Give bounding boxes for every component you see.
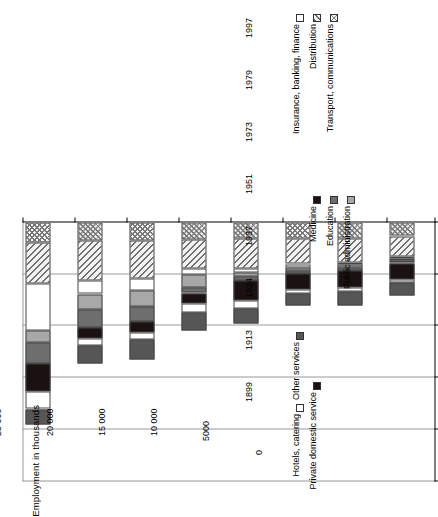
legend-swatch-public-administration-icon bbox=[347, 196, 355, 204]
segment-transport bbox=[25, 222, 50, 242]
category-label-1973: 1973 bbox=[244, 122, 254, 142]
segment-transport bbox=[181, 222, 206, 239]
segment-education bbox=[129, 306, 154, 321]
legend-swatch-transport-communications-icon bbox=[330, 14, 338, 22]
legend-label: Insurance, banking, finance bbox=[292, 24, 301, 134]
bar-1951 bbox=[181, 0, 206, 491]
category-label-1899: 1899 bbox=[244, 382, 254, 402]
category-label-1924: 1924 bbox=[244, 278, 254, 298]
ticklabel-10000: 10 000 bbox=[149, 408, 159, 436]
segment-distribution bbox=[389, 236, 414, 257]
segment-public-administration bbox=[233, 272, 258, 276]
category-label-1979: 1979 bbox=[244, 70, 254, 90]
segment-insurance bbox=[129, 278, 154, 290]
segment-transport bbox=[129, 222, 154, 240]
segment-medicine bbox=[181, 293, 206, 304]
ticklabel-25000: 25 000 bbox=[0, 408, 3, 436]
segment-medicine bbox=[389, 263, 414, 280]
legend-column-3: Insurance, banking, finance Distribution… bbox=[292, 0, 309, 491]
category-tick bbox=[282, 217, 283, 222]
tick-25000 bbox=[434, 480, 438, 481]
segment-medicine bbox=[129, 321, 154, 332]
segment-public-administration bbox=[129, 290, 154, 306]
ticklabel-0: 0 bbox=[254, 450, 264, 455]
category-tick bbox=[126, 217, 127, 222]
legend-item-education[interactable]: Education bbox=[326, 196, 343, 246]
legend-label: Medicine bbox=[309, 206, 318, 242]
segment-other-services bbox=[129, 339, 154, 359]
category-label-1997: 1997 bbox=[244, 18, 254, 38]
segment-other-services bbox=[389, 282, 414, 295]
segment-hotels bbox=[129, 332, 154, 339]
segment-distribution bbox=[25, 242, 50, 283]
segment-other-services bbox=[181, 312, 206, 330]
legend-item-medicine[interactable]: Medicine bbox=[309, 196, 326, 242]
bar-1899 bbox=[389, 0, 414, 491]
legend-swatch-insurance-banking-finance-icon bbox=[296, 14, 304, 22]
legend-label: Public administration bbox=[343, 206, 352, 289]
plot-frame-top bbox=[22, 222, 23, 481]
tick-15000 bbox=[434, 376, 438, 377]
category-tick bbox=[74, 217, 75, 222]
segment-transport bbox=[77, 222, 102, 240]
segment-other-services bbox=[233, 308, 258, 323]
value-axis-line bbox=[434, 221, 435, 481]
segment-insurance bbox=[77, 280, 102, 294]
tick-10000 bbox=[434, 324, 438, 325]
legend: Other services Hotels, catering Private … bbox=[292, 0, 346, 491]
segment-public-administration bbox=[25, 330, 50, 342]
segment-hotels bbox=[233, 300, 258, 308]
category-tick bbox=[178, 217, 179, 222]
legend-swatch-education-icon bbox=[330, 196, 338, 204]
legend-swatch-distribution-icon bbox=[313, 14, 321, 22]
legend-column-2: Medicine Education Public administration bbox=[309, 0, 326, 491]
segment-transport bbox=[389, 222, 414, 236]
segment-insurance bbox=[25, 283, 50, 330]
category-tick bbox=[386, 217, 387, 222]
segment-medicine bbox=[77, 327, 102, 338]
segment-insurance bbox=[233, 268, 258, 272]
segment-education bbox=[77, 309, 102, 327]
segment-public-administration bbox=[77, 294, 102, 310]
segment-education bbox=[25, 342, 50, 363]
segment-hotels bbox=[77, 338, 102, 345]
legend-label: Education bbox=[326, 206, 335, 246]
segment-public-administration bbox=[181, 274, 206, 287]
segment-education bbox=[181, 287, 206, 293]
segment-other-services bbox=[77, 345, 102, 363]
tick-20000 bbox=[434, 428, 438, 429]
category-tick bbox=[230, 217, 231, 222]
segment-medicine bbox=[25, 363, 50, 391]
segment-insurance bbox=[181, 268, 206, 274]
category-tick bbox=[434, 217, 435, 222]
legend-label: Distribution bbox=[309, 24, 318, 69]
category-label-1937: 1937 bbox=[244, 226, 254, 246]
segment-distribution bbox=[77, 240, 102, 280]
legend-item-insurance-banking-finance[interactable]: Insurance, banking, finance bbox=[292, 14, 309, 134]
ticklabel-15000: 15 000 bbox=[97, 408, 107, 436]
category-tick bbox=[22, 217, 23, 222]
segment-distribution bbox=[129, 240, 154, 278]
ticklabel-20000: 20 000 bbox=[45, 408, 55, 436]
legend-swatch-medicine-icon bbox=[313, 196, 321, 204]
segment-hotels bbox=[181, 303, 206, 311]
ticklabel-5000: 5000 bbox=[201, 421, 211, 441]
value-axis-title: Employment in thousands bbox=[30, 405, 41, 517]
legend-label: Transport, communications bbox=[326, 24, 335, 132]
category-label-1951: 1951 bbox=[244, 174, 254, 194]
category-label-1913: 1913 bbox=[244, 330, 254, 350]
legend-item-transport-communications[interactable]: Transport, communications bbox=[326, 14, 343, 132]
legend-item-distribution[interactable]: Distribution bbox=[309, 14, 326, 69]
segment-distribution bbox=[181, 239, 206, 268]
tick-5000 bbox=[434, 273, 438, 274]
legend-item-public-administration[interactable]: Public administration bbox=[343, 196, 360, 289]
